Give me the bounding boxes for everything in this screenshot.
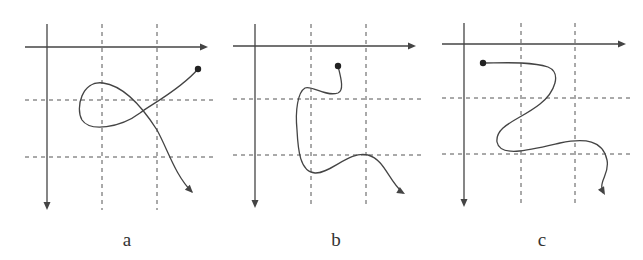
trajectory-diagram xyxy=(0,0,643,260)
panel-label-c: c xyxy=(538,229,546,251)
trajectory-path xyxy=(79,69,198,192)
y-axis-arrow-icon xyxy=(252,200,259,208)
y-axis-arrow-icon xyxy=(461,199,468,207)
panel-a xyxy=(25,24,215,210)
panel-label-b: b xyxy=(331,229,341,251)
start-dot-icon xyxy=(335,63,341,69)
panel-c xyxy=(442,23,632,207)
trajectory-path xyxy=(483,63,607,193)
panel-label-a: a xyxy=(123,229,131,251)
start-dot-icon xyxy=(195,66,201,72)
x-axis-arrow-icon xyxy=(408,43,416,50)
trajectory-path xyxy=(296,66,403,193)
start-dot-icon xyxy=(480,60,486,66)
x-axis-arrow-icon xyxy=(618,41,626,48)
panel-b xyxy=(233,24,422,208)
x-axis-arrow-icon xyxy=(200,44,208,51)
figure-stage: a b c xyxy=(0,0,643,260)
y-axis-arrow-icon xyxy=(44,202,51,210)
